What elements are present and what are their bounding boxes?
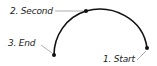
- leader-line-end: [41, 45, 52, 53]
- point-second: [84, 9, 88, 13]
- leader-line-start: [137, 51, 146, 60]
- label-second: 2. Second: [10, 6, 53, 16]
- label-start: 1. Start: [103, 54, 135, 64]
- arc-path: [54, 9, 147, 55]
- point-end: [52, 53, 56, 57]
- arc-diagram: 2. Second 3. End 1. Start: [0, 0, 157, 66]
- label-end: 3. End: [8, 38, 35, 48]
- point-start: [145, 46, 149, 50]
